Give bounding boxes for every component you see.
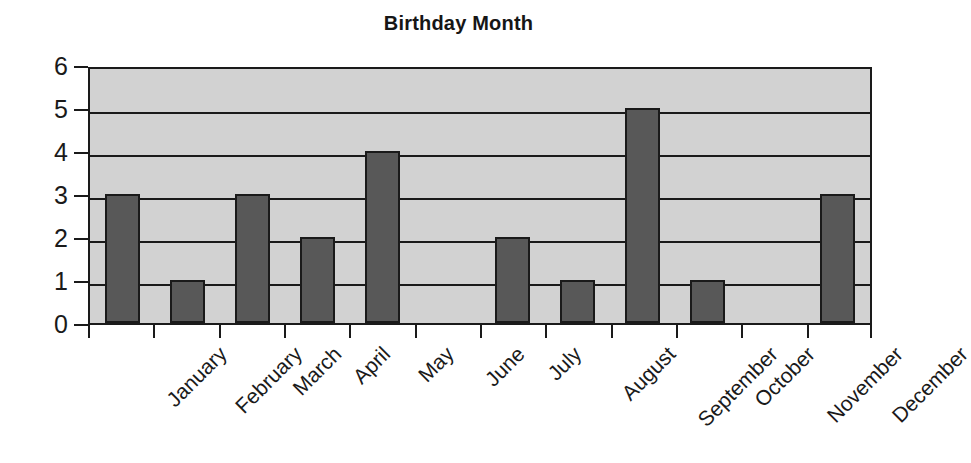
y-tick-label: 5	[54, 95, 68, 123]
y-tick-mark	[74, 238, 88, 240]
x-tick-mark	[349, 325, 351, 338]
bar-march[interactable]	[235, 194, 270, 323]
y-tick-label: 3	[54, 181, 68, 209]
x-tick-label-june: June	[480, 342, 528, 390]
y-tick-mark	[74, 281, 88, 283]
x-tick-mark	[611, 325, 613, 338]
x-tick-mark	[741, 325, 743, 338]
x-tick-label-july: July	[543, 342, 586, 385]
y-tick-mark	[74, 66, 88, 68]
x-tick-label-may: May	[413, 342, 457, 386]
y-tick-mark	[74, 152, 88, 154]
y-tick-mark	[74, 195, 88, 197]
bar-slot	[220, 69, 285, 323]
bar-january[interactable]	[105, 194, 140, 323]
bar-slot	[610, 69, 675, 323]
bar-december[interactable]	[820, 194, 855, 323]
bar-april[interactable]	[300, 237, 335, 323]
bar-august[interactable]	[560, 280, 595, 323]
bar-slot	[675, 69, 740, 323]
x-tick-mark	[219, 325, 221, 338]
bar-slot	[545, 69, 610, 323]
bar-july[interactable]	[495, 237, 530, 323]
x-tick-mark	[545, 325, 547, 338]
x-tick-mark	[415, 325, 417, 338]
bar-slot	[350, 69, 415, 323]
bar-slot	[740, 69, 805, 323]
y-axis: 0123456	[40, 67, 88, 325]
plot-area	[88, 67, 872, 325]
x-tick-label-april: April	[349, 342, 395, 388]
bars-container	[90, 69, 870, 323]
x-tick-mark	[676, 325, 678, 338]
bar-slot	[155, 69, 220, 323]
x-tick-mark	[807, 325, 809, 338]
y-tick-mark	[74, 109, 88, 111]
bar-slot	[805, 69, 870, 323]
y-tick-label: 4	[54, 138, 68, 166]
bar-slot	[480, 69, 545, 323]
bar-february[interactable]	[170, 280, 205, 323]
chart-title: Birthday Month	[0, 12, 917, 35]
x-tick-mark	[88, 325, 90, 338]
x-tick-mark	[153, 325, 155, 338]
y-tick-label: 6	[54, 52, 68, 80]
x-tick-label-august: August	[617, 342, 680, 405]
x-tick-mark	[480, 325, 482, 338]
x-tick-mark	[870, 325, 872, 338]
x-tick-mark	[284, 325, 286, 338]
y-tick-label: 1	[54, 267, 68, 295]
bar-october[interactable]	[690, 280, 725, 323]
bar-september[interactable]	[625, 108, 660, 323]
bar-slot	[285, 69, 350, 323]
x-axis	[88, 325, 872, 339]
bar-slot	[415, 69, 480, 323]
bar-slot	[90, 69, 155, 323]
y-tick-label: 2	[54, 224, 68, 252]
x-axis-tick-labels: JanuaryFebruaryMarchAprilMayJuneJulyAugu…	[88, 340, 872, 458]
y-tick-mark	[74, 324, 88, 326]
bar-may[interactable]	[365, 151, 400, 323]
x-tick-label-january: January	[162, 342, 231, 411]
y-tick-label: 0	[54, 310, 68, 338]
